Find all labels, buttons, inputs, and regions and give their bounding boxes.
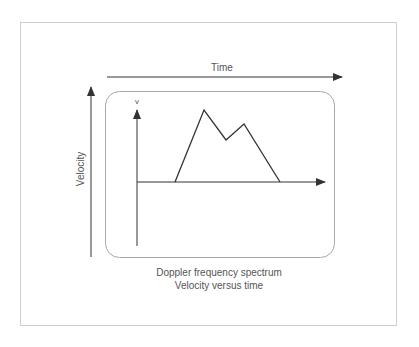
doppler-diagram: Time Velocity v Doppler frequency spectr… [0, 0, 419, 347]
velocity-label: Velocity [75, 152, 86, 186]
time-label: Time [211, 62, 233, 73]
caption-line2: Velocity versus time [175, 280, 264, 291]
spectrum-box [106, 92, 335, 258]
caption-line1: Doppler frequency spectrum [156, 267, 282, 278]
waveform-line [175, 110, 280, 182]
inner-v-label: v [135, 97, 139, 106]
